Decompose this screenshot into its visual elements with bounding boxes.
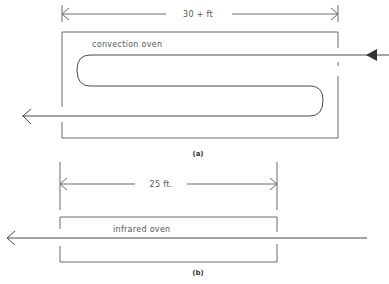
caption-a: (a) bbox=[192, 150, 203, 158]
oven-label-a: convection oven bbox=[92, 40, 162, 49]
dimension-label-b: 25 ft. bbox=[150, 180, 173, 189]
oven-label-b: infrared oven bbox=[113, 225, 170, 234]
dimension-label-a: 30 + ft bbox=[183, 10, 213, 19]
oven-comparison-diagram: 30 + ft convection oven (a) bbox=[0, 0, 389, 284]
entry-arrow-icon bbox=[366, 49, 377, 61]
figure-b-infrared: 25 ft. infrared oven (b) bbox=[7, 162, 367, 277]
dimension-line-a: 30 + ft bbox=[62, 5, 338, 22]
serpentine-conveyor-path bbox=[22, 55, 375, 116]
dimension-line-b: 25 ft. bbox=[60, 162, 277, 210]
caption-b: (b) bbox=[192, 269, 203, 277]
oven-box-b bbox=[60, 217, 277, 262]
figure-a-convection: 30 + ft convection oven (a) bbox=[22, 5, 389, 158]
